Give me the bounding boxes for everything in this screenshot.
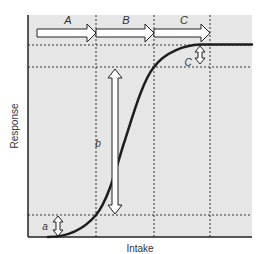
x-axis-label: Intake <box>126 243 154 254</box>
range-label-c: C <box>184 57 192 68</box>
phase-label-c: C <box>180 14 188 26</box>
phase-label-a: A <box>63 14 71 26</box>
dose-response-diagram: A B C b a C Intake Response <box>0 0 266 254</box>
phase-label-b: B <box>122 14 129 26</box>
range-label-b: b <box>95 138 101 149</box>
plot-area <box>28 15 252 237</box>
y-axis-label: Response <box>9 103 20 148</box>
range-label-a: a <box>42 221 48 232</box>
